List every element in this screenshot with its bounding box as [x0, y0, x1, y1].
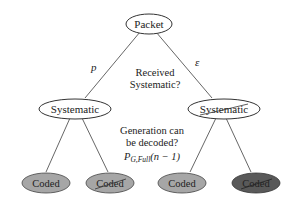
question-generation-line2: be decoded? — [126, 137, 179, 148]
edge-systematic-right-coded-3 — [190, 118, 216, 172]
node-coded-2: Coded — [86, 173, 134, 193]
node-systematic-right: Systematic — [188, 99, 260, 119]
node-coded-1-label: Coded — [32, 178, 60, 189]
node-coded-3-label: Coded — [168, 178, 196, 189]
tree-diagram: Packet p ε Received Systematic? Systemat… — [0, 0, 296, 204]
node-coded-4: Coded — [232, 173, 280, 193]
question-formula: PG,Full(n − 1) — [123, 151, 181, 164]
node-packet-label: Packet — [134, 18, 163, 30]
edge-systematic-left-coded-1 — [46, 118, 70, 172]
edge-label-p: p — [90, 61, 97, 73]
node-coded-3: Coded — [158, 173, 206, 193]
edge-label-epsilon: ε — [195, 56, 200, 68]
edge-systematic-right-coded-4 — [226, 118, 251, 172]
node-packet: Packet — [126, 14, 172, 34]
node-coded-1: Coded — [22, 173, 70, 193]
node-systematic-left-label: Systematic — [51, 103, 99, 115]
question-received-line2: Systematic? — [130, 79, 181, 90]
question-received-line1: Received — [135, 67, 175, 78]
question-generation-line1: Generation can — [120, 125, 185, 136]
edge-systematic-left-coded-2 — [82, 118, 108, 172]
node-systematic-left: Systematic — [39, 99, 111, 119]
